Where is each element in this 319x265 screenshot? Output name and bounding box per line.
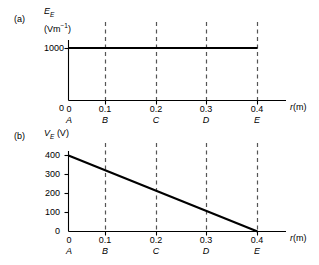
panel-b-point-label-C: C — [144, 246, 168, 256]
panel-b-point-label-B: B — [93, 246, 117, 256]
panel-a-x-axis-title: r(m) — [290, 102, 307, 112]
panel-b-point-label-A: A — [57, 246, 81, 256]
panel-a-x-units: (m) — [293, 102, 307, 112]
panel-a-xtick-label-0.2: 0.2 — [144, 104, 168, 114]
panel-a-point-label-C: C — [144, 115, 168, 125]
panel-a-point-label-E: E — [245, 115, 269, 125]
panel-b-x-units: (m) — [293, 233, 307, 243]
panel-a-xtick-label-0.4: 0.4 — [245, 104, 269, 114]
panel-b-x-axis-title: r(m) — [290, 233, 307, 243]
panel-b-xtick-label-0.2: 0.2 — [144, 235, 168, 245]
panel-b-point-label-E: E — [245, 246, 269, 256]
panel-b-data-line-potential — [69, 156, 258, 232]
panel-a-point-label-D: D — [194, 115, 218, 125]
panel-a-point-label-B: B — [93, 115, 117, 125]
panel-b-potential-chart: (b) VE (V) 400 300 200 100 0 — [0, 125, 319, 265]
panel-a-xtick-label-0.1: 0.1 — [93, 104, 117, 114]
panel-b-xtick-label-0.3: 0.3 — [194, 235, 218, 245]
panel-b-xtick-label-0.4: 0.4 — [245, 235, 269, 245]
figure-electric-field-and-potential: (a) EE (Vm−1) 1000 0 — [0, 0, 319, 265]
panel-a-point-label-A: A — [57, 115, 81, 125]
panel-a-xtick-label-0: 0 — [57, 104, 81, 114]
panel-b-xtick-label-0: 0 — [57, 235, 81, 245]
panel-b-point-label-D: D — [194, 246, 218, 256]
panel-a-field-chart: (a) EE (Vm−1) 1000 0 — [0, 0, 319, 133]
panel-a-xtick-label-0.3: 0.3 — [194, 104, 218, 114]
panel-b-xtick-label-0.1: 0.1 — [93, 235, 117, 245]
